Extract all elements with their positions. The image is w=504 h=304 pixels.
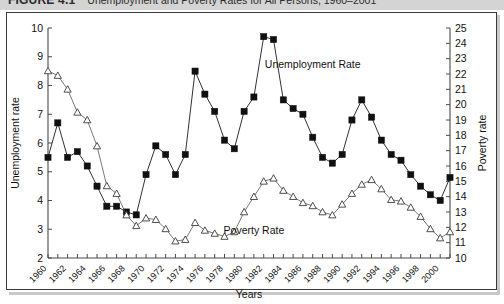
marker-poverty — [368, 176, 375, 182]
x-ticklabel-1972: 1972 — [145, 263, 166, 284]
chart-plot: 2345678910101112131415161718192021222324… — [0, 0, 504, 304]
marker-unemployment — [202, 91, 208, 97]
marker-poverty — [358, 181, 365, 187]
marker-unemployment — [114, 203, 120, 209]
y-ticklabel-left-5: 5 — [37, 165, 43, 177]
marker-unemployment — [153, 143, 159, 149]
marker-poverty — [74, 109, 81, 115]
y-ticklabel-right-17: 17 — [455, 144, 467, 156]
marker-poverty — [446, 228, 453, 234]
marker-unemployment — [74, 149, 80, 155]
y-ticklabel-left-6: 6 — [37, 137, 43, 149]
marker-unemployment — [104, 203, 110, 209]
marker-poverty — [84, 116, 91, 122]
marker-unemployment — [133, 212, 139, 218]
y-ticklabel-right-24: 24 — [455, 37, 467, 49]
marker-poverty — [319, 208, 326, 214]
y-ticklabel-right-18: 18 — [455, 129, 467, 141]
x-ticklabel-1962: 1962 — [47, 263, 68, 284]
marker-unemployment — [319, 154, 325, 160]
series-layer — [44, 34, 453, 244]
marker-unemployment — [212, 108, 218, 114]
y-ticklabel-left-3: 3 — [37, 223, 43, 235]
x-ticklabel-1992: 1992 — [341, 263, 362, 284]
x-ticklabel-1976: 1976 — [184, 263, 205, 284]
marker-unemployment — [368, 114, 374, 120]
y-ticklabel-right-15: 15 — [455, 175, 467, 187]
y-ticklabel-right-22: 22 — [455, 68, 467, 80]
marker-unemployment — [270, 36, 276, 42]
marker-poverty — [250, 193, 257, 199]
marker-unemployment — [329, 160, 335, 166]
x-ticklabel-1966: 1966 — [86, 263, 107, 284]
y-ticklabel-left-2: 2 — [37, 252, 43, 264]
marker-poverty — [64, 86, 71, 92]
y-ticklabel-left-8: 8 — [37, 79, 43, 91]
marker-unemployment — [172, 172, 178, 178]
figure-root: FIGURE 4.1Unemployment and Poverty Rates… — [0, 0, 504, 304]
y-ticklabel-right-10: 10 — [455, 252, 467, 264]
marker-unemployment — [388, 151, 394, 157]
x-ticklabel-1988: 1988 — [302, 263, 323, 284]
marker-poverty — [54, 72, 61, 78]
x-ticklabel-1986: 1986 — [282, 263, 303, 284]
marker-unemployment — [261, 34, 267, 40]
annotation-poverty-rate: Poverty Rate — [224, 224, 285, 236]
marker-poverty — [93, 142, 100, 148]
marker-unemployment — [45, 154, 51, 160]
marker-unemployment — [192, 68, 198, 74]
y-ticklabel-right-19: 19 — [455, 114, 467, 126]
x-ticklabel-1964: 1964 — [66, 263, 87, 284]
x-ticklabel-1984: 1984 — [262, 263, 283, 284]
x-ticklabel-1980: 1980 — [223, 263, 244, 284]
marker-poverty — [201, 227, 208, 233]
y-ticklabel-right-12: 12 — [455, 221, 467, 233]
marker-unemployment — [182, 151, 188, 157]
x-ticklabel-2000: 2000 — [419, 263, 440, 284]
x-ticklabel-1978: 1978 — [204, 263, 225, 284]
y-ticklabel-right-11: 11 — [455, 236, 466, 248]
x-ticklabel-1998: 1998 — [400, 263, 421, 284]
x-ticklabel-1960: 1960 — [27, 263, 48, 284]
marker-poverty — [299, 199, 306, 205]
x-ticklabel-1990: 1990 — [321, 263, 342, 284]
marker-unemployment — [300, 111, 306, 117]
marker-unemployment — [427, 192, 433, 198]
marker-unemployment — [143, 172, 149, 178]
y-ticklabel-right-23: 23 — [455, 52, 467, 64]
y-ticklabel-right-25: 25 — [455, 22, 467, 34]
marker-unemployment — [378, 137, 384, 143]
y-ticklabel-right-13: 13 — [455, 206, 467, 218]
y-axis-title-right: Poverty rate — [476, 115, 488, 172]
x-ticklabel-1974: 1974 — [164, 263, 185, 284]
y-ticklabel-left-10: 10 — [31, 22, 43, 34]
marker-unemployment — [94, 183, 100, 189]
marker-unemployment — [437, 197, 443, 203]
marker-unemployment — [417, 183, 423, 189]
y-ticklabel-left-9: 9 — [37, 50, 43, 62]
y-ticklabel-right-14: 14 — [455, 190, 467, 202]
marker-poverty — [240, 208, 247, 214]
marker-unemployment — [349, 117, 355, 123]
marker-unemployment — [65, 154, 71, 160]
y-ticklabel-left-7: 7 — [37, 108, 43, 120]
marker-unemployment — [84, 163, 90, 169]
marker-unemployment — [310, 134, 316, 140]
x-ticklabel-1968: 1968 — [106, 263, 127, 284]
x-axis-title: Years — [236, 288, 262, 300]
marker-poverty — [407, 204, 414, 210]
marker-unemployment — [231, 146, 237, 152]
x-ticklabel-1970: 1970 — [125, 263, 146, 284]
marker-unemployment — [280, 97, 286, 103]
y-ticklabel-right-21: 21 — [455, 83, 467, 95]
x-ticklabel-1996: 1996 — [380, 263, 401, 284]
marker-poverty — [270, 175, 277, 181]
marker-poverty — [142, 215, 149, 221]
marker-poverty — [113, 190, 120, 196]
marker-poverty — [103, 182, 110, 188]
marker-unemployment — [163, 151, 169, 157]
x-ticklabel-1994: 1994 — [361, 263, 382, 284]
marker-poverty — [191, 219, 198, 225]
marker-unemployment — [359, 97, 365, 103]
marker-unemployment — [447, 174, 453, 180]
